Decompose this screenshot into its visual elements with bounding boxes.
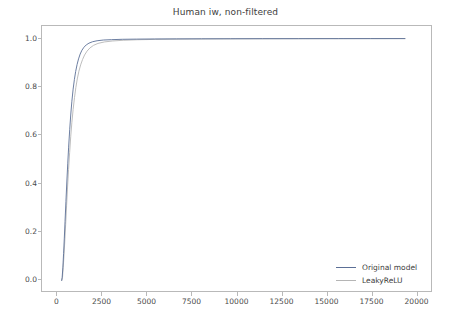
series-line <box>62 39 405 281</box>
y-tick-label: 0.8 <box>9 81 37 90</box>
legend-line-swatch <box>336 280 356 281</box>
x-tick-mark <box>191 292 192 296</box>
x-axis-tick-labels: 02500500075001000012500150001750020000 <box>41 297 432 311</box>
x-tick-label: 10000 <box>225 297 249 306</box>
x-tick-mark <box>237 292 238 296</box>
x-tick-mark <box>327 292 328 296</box>
legend-label: LeakyReLU <box>362 277 403 285</box>
y-tick-label: 0.4 <box>9 178 37 187</box>
x-tick-label: 12500 <box>270 297 294 306</box>
y-axis-tick-labels: 0.00.20.40.60.81.0 <box>4 25 37 292</box>
x-tick-mark <box>282 292 283 296</box>
y-tick-label: 0.6 <box>9 130 37 139</box>
y-tick-label: 1.0 <box>9 33 37 42</box>
legend-item[interactable]: LeakyReLU <box>336 274 432 287</box>
x-tick-label: 17500 <box>360 297 384 306</box>
plot-lines <box>42 26 433 293</box>
x-tick-label: 5000 <box>137 297 156 306</box>
chart-legend: Original modelLeakyReLU <box>336 261 432 287</box>
plot-area <box>41 25 432 292</box>
y-tick-label: 0.2 <box>9 227 37 236</box>
legend-label: Original model <box>362 264 417 272</box>
chart-figure: Human iw, non-filtered 0.00.20.40.60.81.… <box>0 0 451 323</box>
x-tick-label: 20000 <box>405 297 429 306</box>
x-axis-tick-marks <box>41 292 432 296</box>
x-tick-label: 2500 <box>92 297 111 306</box>
legend-line-swatch <box>336 267 356 268</box>
x-tick-mark <box>146 292 147 296</box>
y-tick-label: 0.0 <box>9 275 37 284</box>
x-tick-label: 7500 <box>182 297 201 306</box>
x-tick-mark <box>56 292 57 296</box>
x-tick-mark <box>372 292 373 296</box>
x-tick-mark <box>417 292 418 296</box>
chart-title: Human iw, non-filtered <box>0 7 451 17</box>
series-line <box>62 39 405 281</box>
x-tick-label: 0 <box>54 297 59 306</box>
x-tick-mark <box>101 292 102 296</box>
x-tick-label: 15000 <box>315 297 339 306</box>
legend-item[interactable]: Original model <box>336 261 432 274</box>
